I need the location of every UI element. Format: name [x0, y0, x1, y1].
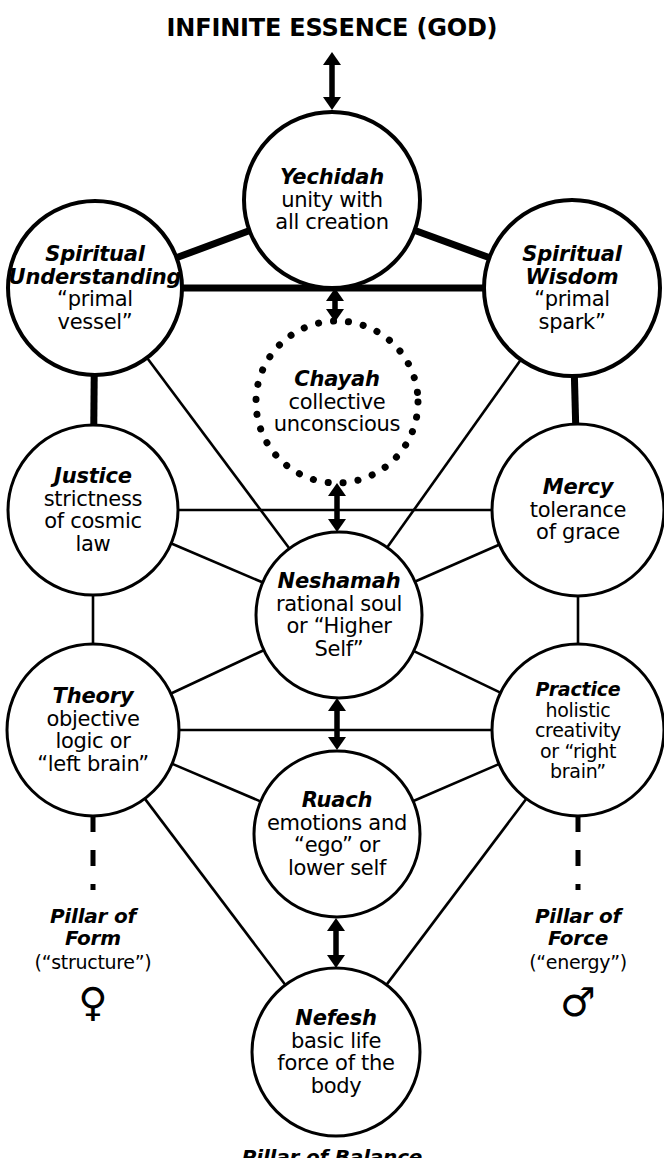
node-circle-yechidah[interactable]: [244, 112, 420, 288]
double-arrow-infinite-essence-to-yechidah: [323, 52, 341, 110]
edge-yechidah-to-spiritual-understanding: [176, 230, 251, 258]
bottom-caption: Pillar of Balance: [0, 1145, 664, 1158]
edge-spiritual-wisdom-to-mercy: [574, 375, 575, 425]
double-arrow-neshamah-to-ruach: [328, 698, 346, 750]
edge-yechidah-to-spiritual-wisdom: [414, 230, 491, 258]
node-circle-ruach[interactable]: [254, 751, 420, 917]
node-circle-justice[interactable]: [8, 425, 178, 595]
pillar-name-line1-pillar-of-force: Pillar of: [463, 905, 664, 927]
node-circle-practice[interactable]: [492, 644, 664, 816]
pillar-name-line1-pillar-of-form: Pillar of: [0, 905, 208, 927]
node-circle-neshamah[interactable]: [256, 532, 422, 698]
pillar-label-pillar-of-form: Pillar ofForm(“structure”): [0, 905, 208, 973]
pillar-subtitle-pillar-of-force: (“energy”): [463, 952, 664, 973]
node-circle-chayah[interactable]: [256, 321, 418, 483]
edge-mercy-to-neshamah: [414, 544, 500, 582]
edge-theory-to-neshamah: [170, 650, 265, 694]
edge-theory-to-ruach: [171, 763, 261, 802]
node-circle-spiritual-wisdom[interactable]: [484, 200, 660, 376]
edge-practice-to-ruach: [412, 764, 500, 802]
mars-male-symbol: ♂: [560, 982, 596, 1022]
node-circle-theory[interactable]: [7, 644, 179, 816]
double-arrow-chayah-to-neshamah: [328, 483, 346, 532]
pillar-name-line2-pillar-of-force: Force: [463, 927, 664, 949]
pillar-subtitle-pillar-of-form: (“structure”): [0, 952, 208, 973]
node-circle-mercy[interactable]: [492, 424, 664, 596]
double-arrow-ruach-to-nefesh: [327, 918, 345, 968]
venus-female-symbol: ♀: [78, 982, 107, 1022]
node-circle-spiritual-understanding[interactable]: [8, 201, 182, 375]
pillar-label-pillar-of-force: Pillar ofForce(“energy”): [463, 905, 664, 973]
node-circle-nefesh[interactable]: [252, 968, 420, 1136]
tree-of-life-diagram: INFINITE ESSENCE (GOD) Yechidahunity wit…: [0, 0, 664, 1158]
pillar-name-line2-pillar-of-form: Form: [0, 927, 208, 949]
edge-justice-to-neshamah: [170, 543, 263, 583]
edge-practice-to-neshamah: [413, 651, 502, 694]
double-arrow-yechidah-to-chayah: [326, 288, 344, 322]
